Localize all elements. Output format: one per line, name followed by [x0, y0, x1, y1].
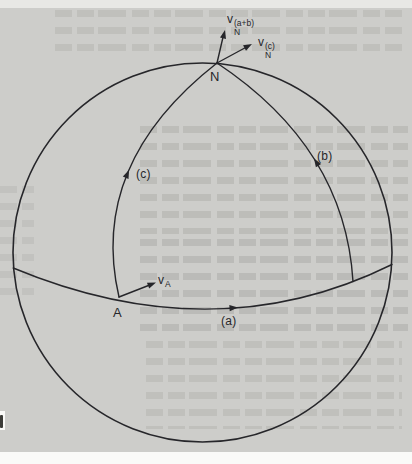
vector-va-arrowhead-icon — [147, 280, 157, 289]
vector-va-shaft — [119, 285, 151, 298]
vector-vn-c-shaft — [217, 47, 248, 64]
parallel-transport-sphere-diagram — [0, 0, 412, 464]
path-c-label: (c) — [136, 167, 151, 181]
vector-vn-c-symbol: v — [258, 35, 264, 49]
path-b-label: (b) — [317, 149, 333, 163]
point-a-label: A — [113, 306, 122, 320]
vector-va-subscript: A — [165, 279, 171, 289]
vector-vn-c-arrowhead-icon — [243, 41, 253, 51]
vector-vn-c-label: v(c)N — [258, 36, 275, 59]
meridian-path-c — [113, 63, 217, 297]
path-a-label: (a) — [221, 314, 237, 328]
vector-vn-ab-label: v(a+b)N — [227, 13, 254, 36]
vector-vn-ab-shaft — [217, 35, 224, 63]
sphere-outline — [13, 63, 392, 442]
path-c-arrowhead-icon — [123, 169, 132, 179]
path-a-arrowhead-icon — [229, 305, 238, 312]
vector-vn-c-subscript: N — [265, 51, 271, 60]
equator-path-a — [13, 265, 392, 310]
vector-vn-ab-symbol: v — [227, 12, 233, 26]
vector-vn-ab-subscript: N — [234, 28, 240, 37]
vector-va-label: vA — [158, 274, 171, 288]
vector-va-symbol: v — [158, 273, 164, 287]
meridian-path-b — [217, 63, 353, 282]
scanned-page: N A (a) (b) (c) vA v(a+b)N v(c)N — [0, 0, 412, 464]
north-pole-label: N — [210, 70, 220, 84]
